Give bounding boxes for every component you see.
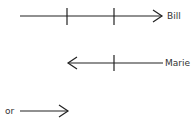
label-bill: Bill bbox=[167, 11, 181, 21]
label-or: or bbox=[5, 106, 14, 116]
label-marie: Marie bbox=[165, 58, 190, 68]
arrow-marie bbox=[68, 55, 163, 71]
arrow-or bbox=[20, 105, 68, 117]
arrow-bill bbox=[20, 8, 162, 25]
